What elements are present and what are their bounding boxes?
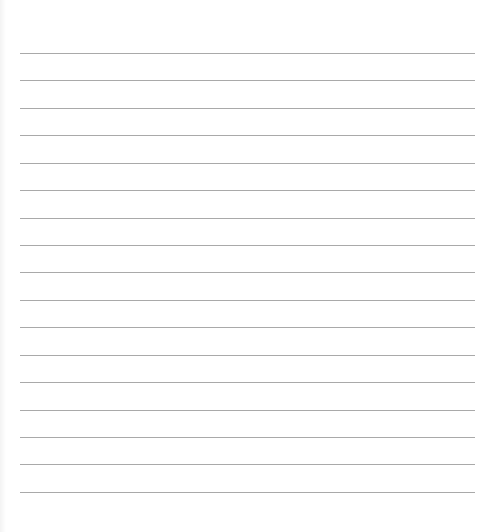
ruled-line: [20, 382, 475, 383]
ruled-line: [20, 410, 475, 411]
ruled-line: [20, 108, 475, 109]
ruled-line: [20, 300, 475, 301]
ruled-line: [20, 437, 475, 438]
ruled-line: [20, 80, 475, 81]
ruled-line: [20, 190, 475, 191]
lined-paper-sheet: [0, 0, 499, 532]
ruled-line: [20, 272, 475, 273]
ruled-line: [20, 53, 475, 54]
ruled-line: [20, 163, 475, 164]
ruled-line: [20, 245, 475, 246]
page-edge-shadow: [0, 0, 6, 532]
ruled-line: [20, 355, 475, 356]
ruled-line: [20, 135, 475, 136]
ruled-line: [20, 464, 475, 465]
ruled-line: [20, 492, 475, 493]
ruled-line: [20, 327, 475, 328]
ruled-line: [20, 218, 475, 219]
